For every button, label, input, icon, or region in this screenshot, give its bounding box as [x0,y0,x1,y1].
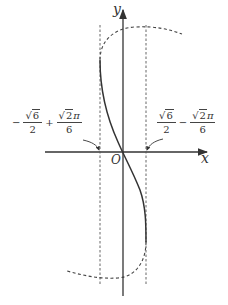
origin-label: O [111,154,121,166]
plus-sign: + [45,117,53,128]
dashed-curve-upper [100,27,182,60]
y-axis-label: y [113,2,121,16]
x-axis-label: x [201,151,209,165]
left-pointer-arrow [83,140,99,150]
dashed-curve-lower [67,242,146,278]
fraction: √6 2 [23,110,42,135]
fraction: √2π 6 [190,110,215,135]
fraction: √6 2 [157,110,176,135]
right-pointer-arrow [147,139,163,150]
right-asymptote-label: √6 2 − √2π 6 [156,110,216,135]
left-asymptote-label: − √6 2 + √2π 6 [10,110,83,135]
minus-sign: − [179,117,187,128]
fraction: √2π 6 [57,110,82,135]
minus-sign: − [12,117,20,128]
